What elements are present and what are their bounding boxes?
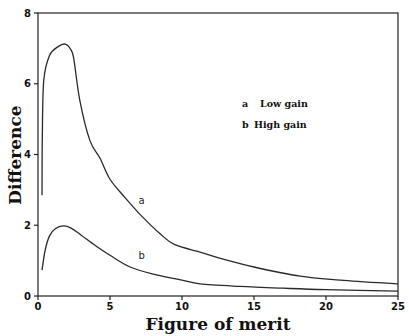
y-tick-label: 4	[24, 149, 31, 160]
y-axis-title: Difference	[5, 105, 25, 204]
legend-label-a: Low gain	[260, 98, 308, 109]
series-a-line	[42, 44, 398, 284]
y-tick-label: 8	[24, 8, 31, 19]
x-tick-label: 5	[107, 301, 114, 312]
curve-labels: ab	[139, 195, 145, 261]
x-tick-label: 10	[175, 301, 189, 312]
x-tick-label: 0	[35, 301, 42, 312]
y-axis-ticks: 02468	[24, 8, 38, 302]
plot-border	[38, 13, 398, 296]
legend: aLow gainbHigh gain	[242, 98, 308, 130]
x-axis-title: Figure of merit	[145, 314, 290, 334]
y-tick-label: 2	[24, 220, 31, 231]
line-chart: 02468 0510152025 ab aLow gainbHigh gain …	[0, 0, 409, 336]
curve-label-a: a	[139, 195, 145, 206]
legend-key-b: b	[242, 119, 249, 130]
series-lines	[42, 44, 398, 291]
x-tick-label: 20	[319, 301, 333, 312]
legend-key-a: a	[242, 98, 248, 109]
x-tick-label: 25	[391, 301, 405, 312]
curve-label-b: b	[139, 250, 145, 261]
x-tick-label: 15	[247, 301, 261, 312]
legend-label-b: High gain	[254, 119, 307, 130]
plot-frame	[38, 13, 398, 296]
y-tick-label: 0	[24, 291, 31, 302]
x-axis-ticks: 0510152025	[35, 296, 405, 312]
y-tick-label: 6	[24, 78, 31, 89]
